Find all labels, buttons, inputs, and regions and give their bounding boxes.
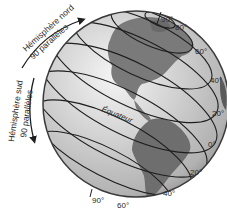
lat-label-40s: 40°: [163, 189, 175, 198]
lat-label-20s: 20°: [190, 168, 202, 177]
lat-label-60n: 60°: [195, 47, 207, 56]
globe-svg: Hémisphère nord 90 parallèles Hémisphère…: [0, 0, 227, 211]
lat-label-90n: 90°: [161, 15, 173, 24]
lat-label-60s: 60°: [117, 201, 129, 210]
lat-label-0: 0°: [208, 140, 216, 149]
lat-label-20n: 20°: [212, 109, 224, 118]
globe-diagram: Hémisphère nord 90 parallèles Hémisphère…: [0, 0, 227, 211]
lat-label-40n: 40°: [210, 76, 222, 85]
lat-label-90s: 90°: [92, 196, 104, 205]
lat-label-80n: 80°: [175, 23, 187, 32]
